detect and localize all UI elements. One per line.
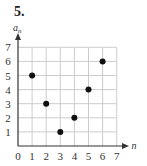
x-tick-label: 2	[43, 150, 49, 162]
x-tick-label: 4	[72, 150, 78, 162]
data-point	[100, 58, 106, 64]
y-tick-label: 3	[5, 98, 11, 110]
x-tick-label: 0	[15, 150, 21, 162]
y-tick-label: 6	[5, 55, 11, 67]
y-tick-label: 4	[5, 84, 11, 96]
data-point	[29, 73, 35, 79]
scatter-chart: 012345671234567nan	[0, 0, 147, 166]
data-point	[43, 101, 49, 107]
x-axis-arrow-icon	[122, 143, 129, 149]
data-point	[57, 129, 63, 135]
y-tick-label: 1	[5, 126, 11, 138]
x-axis-label: n	[132, 140, 137, 151]
x-tick-label: 1	[29, 150, 35, 162]
y-tick-label: 7	[5, 41, 11, 53]
x-tick-label: 7	[114, 150, 120, 162]
y-tick-label: 2	[5, 112, 11, 124]
x-tick-label: 6	[100, 150, 106, 162]
x-tick-label: 5	[86, 150, 92, 162]
y-axis-label: an	[13, 22, 22, 35]
y-tick-label: 5	[5, 70, 11, 82]
x-tick-label: 3	[58, 150, 64, 162]
data-point	[86, 87, 92, 93]
data-point	[71, 115, 77, 121]
